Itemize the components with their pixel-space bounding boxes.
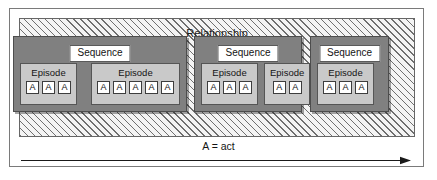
act-box: A [129, 81, 142, 94]
episode-box: EpisodeAAA [20, 63, 77, 105]
act-row: AAA [26, 81, 71, 94]
act-box: A [97, 81, 110, 94]
episode-box: EpisodeAAAAA [91, 63, 180, 105]
act-box: A [273, 81, 286, 94]
act-box: A [161, 81, 174, 94]
act-box: A [113, 81, 126, 94]
episode-label: Episode [118, 66, 152, 79]
act-box: A [323, 81, 336, 94]
act-box: A [145, 81, 158, 94]
act-box: A [239, 81, 252, 94]
legend-label: A = act [0, 140, 437, 152]
episode-box: EpisodeAA [264, 63, 310, 105]
episode-row: EpisodeAAAEpisodeAA [201, 63, 295, 105]
sequence-label: Sequence [319, 45, 380, 62]
act-row: AAAAA [97, 81, 174, 94]
sequence-label: Sequence [69, 45, 130, 62]
sequence-box: SequenceEpisodeAAA [310, 36, 389, 112]
episode-row: EpisodeAAAEpisodeAAAAA [20, 63, 180, 105]
act-row: AAA [207, 81, 252, 94]
episode-label: Episode [328, 66, 362, 79]
sequence-box: SequenceEpisodeAAAEpisodeAA [194, 36, 302, 112]
act-box: A [42, 81, 55, 94]
episode-label: Episode [212, 66, 246, 79]
time-axis-arrow-icon [21, 156, 411, 165]
episode-label: Episode [31, 66, 65, 79]
act-box: A [223, 81, 236, 94]
episode-row: EpisodeAAA [317, 63, 382, 105]
sequence-box: SequenceEpisodeAAAEpisodeAAAAA [13, 36, 187, 112]
act-box: A [355, 81, 368, 94]
episode-label: Episode [270, 66, 304, 79]
act-box: A [26, 81, 39, 94]
episode-box: EpisodeAAA [317, 63, 374, 105]
act-row: AA [273, 81, 302, 94]
act-box: A [289, 81, 302, 94]
episode-box: EpisodeAAA [201, 63, 258, 105]
act-box: A [339, 81, 352, 94]
sequence-label: Sequence [217, 45, 278, 62]
sequence-row: SequenceEpisodeAAAEpisodeAAAAASequenceEp… [13, 36, 427, 112]
act-box: A [207, 81, 220, 94]
act-row: AAA [323, 81, 368, 94]
diagram-canvas: Relationship SequenceEpisodeAAAEpisodeAA… [0, 0, 437, 180]
act-box: A [58, 81, 71, 94]
